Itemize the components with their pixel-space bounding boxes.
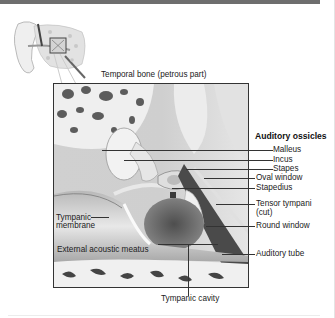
leader-auditory-tube [222, 254, 255, 255]
outer-ear-inset-illustration [10, 16, 90, 86]
heading-auditory-ossicles: Auditory ossicles [255, 132, 327, 141]
label-stapedius: Stapedius [256, 183, 292, 192]
label-oval-window: Oval window [256, 173, 302, 182]
label-tympanic-cavity: Tympanic cavity [161, 294, 219, 303]
leader-tympanic-cavity-vertical [188, 244, 189, 296]
leader-incus [124, 160, 273, 161]
leader-oval-window [204, 178, 255, 179]
label-malleus: Malleus [273, 145, 301, 154]
leader-malleus [102, 150, 273, 151]
label-auditory-tube: Auditory tube [256, 249, 304, 258]
label-tympanic-membrane-line2: membrane [56, 221, 95, 230]
label-tensor-tympani: Tensor tympani [256, 199, 312, 208]
leader-stapes [186, 169, 273, 170]
leader-tympanic-membrane [91, 217, 109, 218]
label-round-window: Round window [256, 221, 310, 230]
label-external-acoustic-meatus: External acoustic meatus [57, 245, 148, 254]
leader-round-window [206, 226, 255, 227]
leader-tensor-tympani [216, 204, 255, 205]
label-temporal-bone: Temporal bone (petrous part) [101, 70, 207, 79]
middle-ear-illustration [53, 83, 249, 288]
label-stapes: Stapes [273, 164, 299, 173]
middle-ear-drawing [54, 84, 249, 288]
header-bar [0, 0, 320, 4]
label-incus: Incus [273, 155, 293, 164]
leader-stapedius [172, 188, 255, 189]
label-tensor-tympani-cut: (cut) [256, 208, 272, 217]
bottom-divider [8, 315, 320, 316]
